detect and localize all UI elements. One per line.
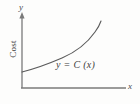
y-axis-arrowhead	[19, 12, 24, 19]
cost-function-graph: y x Cost y = C (x)	[0, 0, 140, 104]
axes-group	[19, 12, 126, 88]
x-axis-label: x	[128, 82, 132, 91]
curve-equation-label: y = C (x)	[56, 59, 95, 70]
cost-axis-title: Cost	[8, 31, 18, 67]
graph-canvas	[0, 0, 140, 104]
y-axis-label: y	[19, 3, 23, 12]
